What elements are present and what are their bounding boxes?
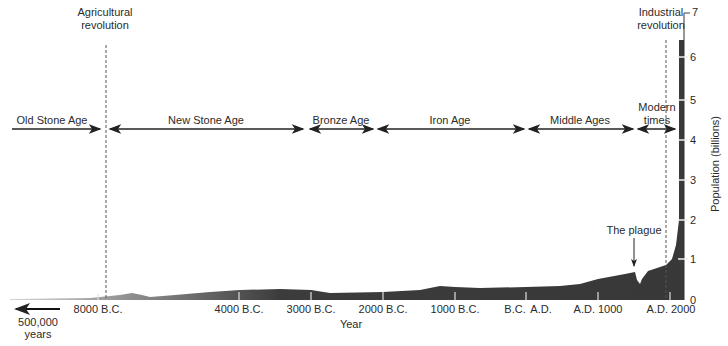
era-modern-times: Modern times xyxy=(638,101,675,127)
axis-bar xyxy=(679,40,684,300)
y-tick-7: 7 xyxy=(692,6,698,19)
y-tick-5: 5 xyxy=(690,94,696,107)
y-tick-1: 1 xyxy=(690,253,696,266)
population-chart xyxy=(0,0,728,346)
x-tick-ad: A.D. xyxy=(530,303,551,316)
agricultural-revolution-label: Agricultural revolution xyxy=(77,6,132,32)
x-tick-8000bc: 8000 B.C. xyxy=(74,303,123,316)
y-tick-4: 4 xyxy=(690,134,696,147)
y-tick-6: 6 xyxy=(690,51,696,64)
x-tick-bc: B.C. xyxy=(504,303,525,316)
x-tick-1000bc: 1000 B.C. xyxy=(431,303,480,316)
x-tick-2000bc: 2000 B.C. xyxy=(359,303,408,316)
x-tick-3000bc: 3000 B.C. xyxy=(287,303,336,316)
break-label: 500,000 years xyxy=(18,316,58,340)
x-axis-title: Year xyxy=(340,318,362,331)
era-iron-age: Iron Age xyxy=(430,114,471,127)
y-tick-3: 3 xyxy=(690,174,696,187)
y-axis-title: Population (billions) xyxy=(709,116,721,212)
population-area xyxy=(10,40,683,300)
x-tick-1000ad: A.D. 1000 xyxy=(574,303,623,316)
era-middle-ages: Middle Ages xyxy=(550,114,610,127)
x-tick-4000bc: 4000 B.C. xyxy=(215,303,264,316)
y-tick-2: 2 xyxy=(690,214,696,227)
era-bronze-age: Bronze Age xyxy=(313,114,370,127)
x-tick-2000ad: A.D. 2000 xyxy=(647,303,696,316)
era-old-stone-age: Old Stone Age xyxy=(17,114,88,127)
plague-label: The plague xyxy=(606,224,661,237)
era-new-stone-age: New Stone Age xyxy=(168,114,244,127)
y-tick-0: 0 xyxy=(690,294,696,307)
industrial-revolution-label: Industrial revolution xyxy=(637,6,685,32)
